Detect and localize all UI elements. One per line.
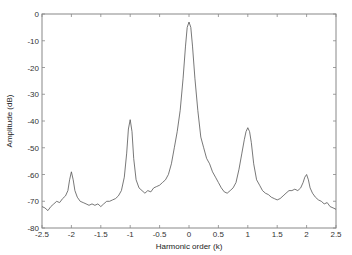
y-tick-label: -60 <box>27 171 39 180</box>
y-tick-label: -80 <box>27 224 39 233</box>
y-tick-label: -30 <box>27 90 39 99</box>
x-axis-tick-labels: -2.5-2-1.5-1-0.500.511.522.5 <box>35 230 342 239</box>
x-tick-label: 1.5 <box>272 230 284 239</box>
chart: -2.5-2-1.5-1-0.500.511.522.5 0-10-20-30-… <box>0 0 352 255</box>
x-tick-label: 2 <box>304 230 309 239</box>
x-tick-label: -1 <box>127 230 135 239</box>
y-axis-tick-labels: 0-10-20-30-40-50-60-70-80 <box>27 10 39 233</box>
y-tick-label: -10 <box>27 37 39 46</box>
x-tick-label: 0.5 <box>213 230 225 239</box>
x-tick-label: 1 <box>246 230 251 239</box>
y-tick-label: -40 <box>27 117 39 126</box>
y-axis-label: Amplitude (dB) <box>5 94 14 147</box>
plot-area <box>42 14 336 228</box>
y-tick-label: 0 <box>35 10 40 19</box>
x-tick-label: -0.5 <box>153 230 167 239</box>
y-tick-label: -70 <box>27 197 39 206</box>
x-axis-label: Harmonic order (k) <box>156 242 223 251</box>
y-tick-label: -20 <box>27 64 39 73</box>
y-tick-label: -50 <box>27 144 39 153</box>
x-tick-label: 2.5 <box>330 230 342 239</box>
x-tick-label: -2 <box>68 230 76 239</box>
x-tick-label: 0 <box>187 230 192 239</box>
x-tick-label: -1.5 <box>94 230 108 239</box>
